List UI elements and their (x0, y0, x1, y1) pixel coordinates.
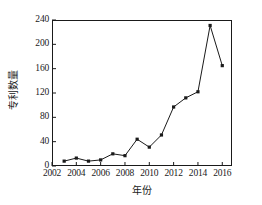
data-point-marker (172, 105, 175, 108)
data-point-marker (148, 146, 151, 149)
data-point-marker (111, 152, 114, 155)
y-axis-ticks (52, 20, 56, 166)
patent-count-line-chart: 04080120160200240 2002200420062008201020… (0, 0, 262, 205)
x-axis-title: 年份 (52, 182, 232, 197)
plot-svg (52, 20, 232, 166)
data-point-marker (184, 96, 187, 99)
y-tick-label: 200 (3, 39, 49, 49)
x-axis-ticks (52, 162, 222, 166)
data-point-marker (221, 64, 224, 67)
data-point-marker (160, 133, 163, 136)
data-point-marker (99, 158, 102, 161)
x-tick-label: 2016 (205, 168, 239, 178)
data-point-marker (123, 154, 126, 157)
data-point-marker (87, 160, 90, 163)
y-tick-label: 40 (3, 137, 49, 147)
y-tick-label: 240 (3, 15, 49, 25)
data-point-marker (75, 156, 78, 159)
x-axis-tick-labels: 20022004200620082010201220142016 (0, 168, 262, 182)
y-axis-title: 专利数量 (5, 55, 20, 125)
data-point-marker (196, 90, 199, 93)
data-point-marker (63, 160, 66, 163)
data-point-marker (209, 24, 212, 27)
data-point-markers (63, 24, 224, 163)
data-point-marker (136, 138, 139, 141)
